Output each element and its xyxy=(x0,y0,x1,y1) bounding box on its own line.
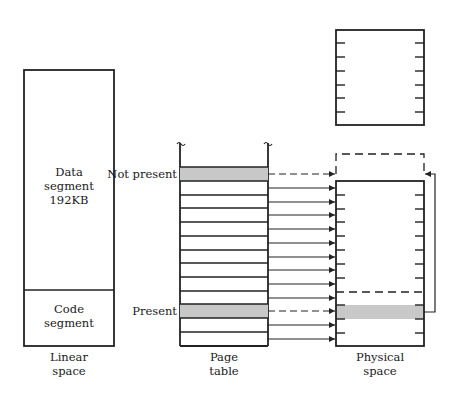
page-table: Not present Present Page table xyxy=(107,143,272,379)
incoming-page-outline xyxy=(336,154,424,174)
mapping-arrows xyxy=(268,174,335,339)
physical-space: Physical space xyxy=(336,154,435,378)
continuation-mark-left xyxy=(177,143,185,146)
linear-space-caption-2: space xyxy=(52,364,86,378)
upper-block-ticks xyxy=(336,43,424,112)
present-label: Present xyxy=(132,304,177,318)
physical-space-box xyxy=(336,181,424,346)
page-table-caption-2: table xyxy=(209,364,239,378)
data-segment-label-1: Data xyxy=(55,165,83,179)
paging-diagram: Data segment 192KB Code segment Linear s… xyxy=(0,0,460,401)
linear-space: Data segment 192KB Code segment Linear s… xyxy=(24,70,114,378)
data-segment-label-2: segment xyxy=(44,179,94,193)
page-table-row-present xyxy=(180,304,268,318)
data-segment-size: 192KB xyxy=(50,193,89,207)
page-table-caption-1: Page xyxy=(210,350,238,364)
present-page-frame xyxy=(336,305,424,319)
physical-space-caption-2: space xyxy=(363,364,397,378)
linear-space-caption-1: Linear xyxy=(50,350,88,364)
page-table-row-not-present xyxy=(180,167,268,181)
upper-block-box xyxy=(336,30,424,125)
code-segment-label-2: segment xyxy=(44,316,94,330)
page-table-row-lines xyxy=(180,167,268,346)
not-present-label: Not present xyxy=(107,167,177,181)
code-segment-label-1: Code xyxy=(54,302,84,316)
physical-space-caption-1: Physical xyxy=(356,350,405,364)
physical-space-upper-block xyxy=(336,30,424,125)
swap-arrow xyxy=(424,174,435,312)
